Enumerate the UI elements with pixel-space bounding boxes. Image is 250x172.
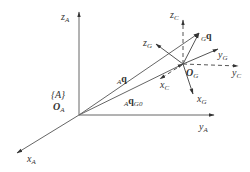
y-g-label: yG <box>217 49 228 62</box>
z-g-label: zG <box>142 37 152 50</box>
y-c-axis <box>183 64 238 66</box>
vector-g-q-label: Gq <box>201 30 212 43</box>
x-g-label: xG <box>196 93 207 106</box>
diagram-svg: zA yA xA {A} OA Aq AqG0 Gq zC yC xC zG y… <box>0 0 250 172</box>
x-c-axis <box>160 64 183 79</box>
z-c-label: zC <box>169 9 179 22</box>
y-a-label: yA <box>198 121 208 134</box>
x-c-label: xC <box>159 79 169 92</box>
x-a-axis <box>17 115 79 153</box>
x-a-label: xA <box>26 153 36 166</box>
frame-a-label: {A} <box>51 89 65 100</box>
y-g-axis <box>183 49 218 64</box>
vector-g-q <box>183 33 199 64</box>
coordinate-frame-diagram: zA yA xA {A} OA Aq AqG0 Gq zC yC xC zG y… <box>0 0 250 172</box>
vector-a-q-label: Aq <box>116 73 127 86</box>
vector-a-q-g0-label: AqG0 <box>123 95 143 108</box>
origin-a-label: OA <box>53 101 65 114</box>
z-a-label: zA <box>60 11 70 24</box>
y-c-label: yC <box>231 67 241 80</box>
